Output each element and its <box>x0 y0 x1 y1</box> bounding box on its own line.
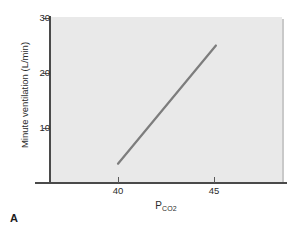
data-line-co2-response <box>118 46 216 164</box>
panel-letter-label: A <box>10 212 18 224</box>
figure-panel-a: 30 20 10 40 45 Minute ventilation (L/min… <box>0 0 297 236</box>
data-series-layer <box>0 0 297 236</box>
